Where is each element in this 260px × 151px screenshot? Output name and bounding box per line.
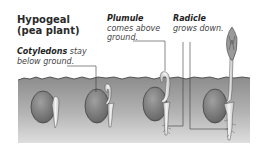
- germination-illustration: [0, 0, 260, 151]
- plumule-callout: [133, 41, 165, 71]
- hypogeal-germination-diagram: Hypogeal (pea plant) Cotyledons stay bel…: [0, 0, 260, 151]
